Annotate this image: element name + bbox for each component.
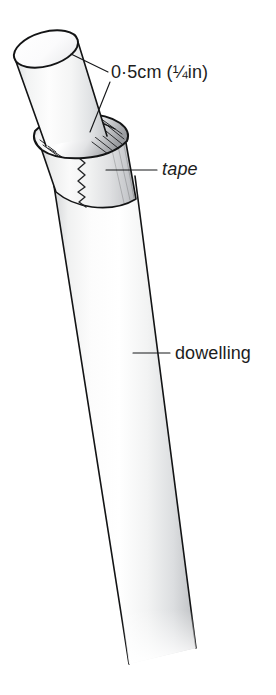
lower-dowel-bottom-fade bbox=[108, 520, 196, 664]
lower-dowel-group bbox=[54, 176, 196, 664]
label-tape: tape bbox=[162, 159, 198, 179]
label-diameter: 0·5cm (¼in) bbox=[111, 62, 208, 82]
upper-dowel-group bbox=[10, 24, 107, 146]
figure-root: 0·5cm (¼in) tape dowelling bbox=[0, 0, 276, 695]
label-dowelling: dowelling bbox=[175, 343, 251, 363]
dowelling-tape-illustration: 0·5cm (¼in) tape dowelling bbox=[0, 0, 276, 695]
